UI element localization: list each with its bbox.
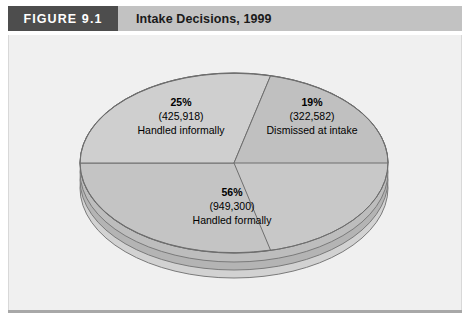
slice-count: (322,582) <box>248 110 376 124</box>
slice-percent: 25% <box>118 96 244 110</box>
figure-root: FIGURE 9.1 Intake Decisions, 1999 <box>0 0 470 322</box>
pie-chart <box>0 0 470 322</box>
slice-label-handled-informally: 25% (425,918) Handled informally <box>118 96 244 138</box>
slice-label-handled-formally: 56% (949,300) Handled formally <box>168 186 296 228</box>
slice-label-dismissed-at-intake: 19% (322,582) Dismissed at intake <box>248 96 376 138</box>
slice-count: (949,300) <box>168 200 296 214</box>
slice-count: (425,918) <box>118 110 244 124</box>
slice-name: Handled formally <box>168 214 296 228</box>
slice-name: Dismissed at intake <box>248 124 376 138</box>
slice-name: Handled informally <box>118 124 244 138</box>
slice-percent: 19% <box>248 96 376 110</box>
slice-percent: 56% <box>168 186 296 200</box>
